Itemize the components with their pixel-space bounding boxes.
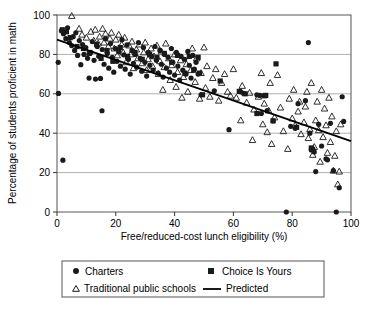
data-point (93, 76, 98, 81)
data-point (103, 36, 108, 41)
data-point (118, 45, 123, 50)
data-point (187, 54, 192, 59)
data-point (101, 62, 106, 67)
data-point (182, 71, 187, 76)
data-point (185, 49, 190, 54)
data-point (197, 71, 202, 76)
data-point (152, 44, 157, 49)
data-point (154, 55, 159, 60)
x-tick-label: 20 (110, 218, 122, 229)
data-point (306, 40, 311, 45)
data-point (254, 111, 259, 116)
data-point (75, 53, 80, 58)
y-axis-title: Percentage of students proficient in mat… (7, 22, 18, 204)
data-point (119, 37, 124, 42)
data-point (331, 168, 336, 173)
data-point (73, 30, 78, 35)
data-point (141, 45, 146, 50)
data-point (196, 55, 201, 60)
legend-label-choice-is-yours: Choice Is Yours (222, 266, 292, 277)
x-tick-label: 80 (287, 218, 299, 229)
data-point (325, 157, 330, 162)
data-point (91, 58, 96, 63)
data-point (169, 60, 174, 65)
data-point (337, 185, 342, 190)
data-point (175, 53, 180, 58)
y-tick-label: 100 (33, 10, 50, 21)
data-point (132, 50, 137, 55)
data-point (104, 48, 109, 53)
data-point (85, 56, 90, 61)
data-point (94, 42, 99, 47)
data-point (118, 64, 123, 69)
data-point (123, 67, 128, 72)
data-point (182, 57, 187, 62)
data-point (99, 108, 104, 113)
data-point (328, 121, 333, 126)
data-point (86, 75, 91, 80)
data-point (147, 52, 152, 57)
data-point (162, 51, 167, 56)
data-point (334, 209, 339, 214)
data-point (191, 68, 196, 73)
data-point (100, 47, 105, 52)
data-point (294, 125, 299, 130)
data-point (273, 61, 278, 66)
data-point (136, 40, 141, 45)
data-point (175, 64, 180, 69)
x-tick-label: 60 (228, 218, 240, 229)
y-tick-label: 60 (39, 88, 51, 99)
data-point (167, 70, 172, 75)
scatter-plot: 020406080100 020406080100 Free/reduced-c… (0, 0, 372, 314)
data-point (263, 93, 268, 98)
data-point (140, 57, 145, 62)
data-point (64, 29, 69, 34)
y-tick-label: 20 (39, 167, 51, 178)
data-point (226, 127, 231, 132)
data-point (98, 76, 103, 81)
legend-marker-choice-is-yours-icon (208, 268, 214, 274)
data-point (187, 63, 192, 68)
y-tick-label: 0 (44, 207, 50, 218)
x-tick-label: 0 (54, 218, 60, 229)
chart-figure: 020406080100 020406080100 Free/reduced-c… (0, 0, 372, 314)
data-point (147, 63, 152, 68)
data-point (125, 54, 130, 59)
data-point (60, 158, 65, 163)
data-point (270, 118, 275, 123)
x-tick-label: 100 (343, 218, 360, 229)
data-point (144, 73, 149, 78)
data-point (307, 131, 312, 136)
data-point (106, 66, 111, 71)
data-point (172, 72, 177, 77)
legend-label-charters: Charters (85, 266, 123, 277)
data-point (169, 46, 174, 51)
y-tick-label: 40 (39, 128, 51, 139)
data-point (341, 119, 346, 124)
x-tick-label: 40 (169, 218, 181, 229)
data-point (284, 209, 289, 214)
legend-label-predicted: Predicted (226, 283, 268, 294)
y-tick-label: 80 (39, 49, 51, 60)
data-point (295, 101, 300, 106)
data-point (81, 52, 86, 57)
data-point (108, 41, 113, 46)
data-point (111, 70, 116, 75)
data-point (124, 42, 129, 47)
data-point (316, 122, 321, 127)
data-point (313, 169, 318, 174)
data-point (56, 60, 61, 65)
data-point (99, 56, 104, 61)
data-point (237, 89, 242, 94)
data-point (200, 92, 205, 97)
legend-marker-charters-icon (73, 268, 79, 274)
data-point (319, 143, 324, 148)
data-point (188, 75, 193, 80)
data-point (303, 98, 308, 103)
data-point (218, 78, 223, 83)
data-point (309, 145, 314, 150)
data-point (193, 60, 198, 65)
x-axis-title: Free/reduced-cost lunch eligibility (%) (121, 231, 288, 242)
legend-label-traditional-public-schools: Traditional public schools (84, 283, 196, 294)
data-point (68, 35, 73, 40)
